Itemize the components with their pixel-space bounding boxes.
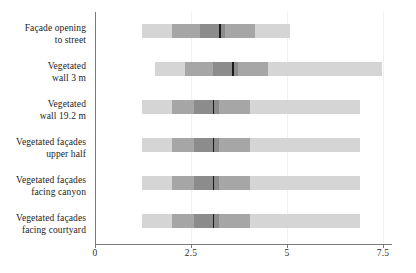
category-label-2: Vegetated wall 19.2 m [0, 99, 86, 122]
chart-canvas: 0 2.5 5 7.5 Façade opening to street Veg… [0, 0, 416, 273]
band-outer-low [142, 24, 172, 38]
category-label-0-line-1: Façade opening [0, 23, 86, 35]
band-outer-high [250, 176, 360, 190]
band-mid-high [225, 24, 255, 38]
band-mid-high [219, 176, 250, 190]
bar-row [142, 214, 360, 228]
band-mid-low [172, 100, 194, 114]
band-inner [194, 214, 219, 228]
bar-row [142, 138, 360, 152]
category-label-5-line-2: facing courtyard [0, 225, 86, 237]
band-outer-low [142, 176, 172, 190]
band-outer-high [268, 62, 382, 76]
category-label-2-line-2: wall 19.2 m [0, 111, 86, 123]
bar-row [155, 62, 382, 76]
band-inner [213, 62, 238, 76]
x-axis-line [95, 244, 392, 245]
category-label-3-line-1: Vegetated façades [0, 137, 86, 149]
gridline-5 [287, 12, 288, 244]
category-label-3: Vegetated façades upper half [0, 137, 86, 160]
category-label-0-line-2: to street [0, 35, 86, 47]
bar-row [142, 176, 360, 190]
band-inner [194, 176, 219, 190]
category-label-2-line-1: Vegetated [0, 99, 86, 111]
band-inner [194, 138, 219, 152]
category-label-3-line-2: upper half [0, 149, 86, 161]
band-outer-high [250, 214, 360, 228]
band-mid-high [219, 100, 250, 114]
band-inner [194, 100, 219, 114]
band-mid-high [238, 62, 268, 76]
band-mid-low [172, 214, 194, 228]
band-mid-high [219, 214, 250, 228]
band-inner [200, 24, 225, 38]
band-outer-high [255, 24, 290, 38]
category-label-1-line-1: Vegetated [0, 61, 86, 73]
band-outer-low [155, 62, 185, 76]
median-line [213, 176, 215, 190]
category-label-1-line-2: wall 3 m [0, 73, 86, 85]
median-line [213, 138, 215, 152]
category-label-1: Vegetated wall 3 m [0, 61, 86, 84]
category-label-5-line-1: Vegetated façades [0, 213, 86, 225]
band-outer-low [142, 100, 172, 114]
bar-row [142, 24, 290, 38]
band-mid-high [219, 138, 250, 152]
median-line [213, 214, 215, 228]
category-label-4: Vegetated façades facing canyon [0, 175, 86, 198]
gridline-2p5 [191, 12, 192, 244]
band-mid-low [172, 176, 194, 190]
band-outer-low [142, 138, 172, 152]
category-label-4-line-2: facing canyon [0, 187, 86, 199]
band-mid-low [172, 24, 200, 38]
bar-row [142, 100, 360, 114]
gridline-7p5 [383, 12, 384, 244]
band-mid-low [185, 62, 213, 76]
x-tick-label-5: 5 [267, 248, 307, 258]
median-line [232, 62, 234, 76]
median-line [213, 100, 215, 114]
band-outer-high [250, 138, 360, 152]
median-line [219, 24, 221, 38]
x-tick-label-2p5: 2.5 [171, 248, 211, 258]
band-mid-low [172, 138, 194, 152]
category-label-0: Façade opening to street [0, 23, 86, 46]
x-tick-label-0: 0 [75, 248, 115, 258]
category-label-5: Vegetated façades facing courtyard [0, 213, 86, 236]
x-tick-label-7p5: 7.5 [363, 248, 403, 258]
y-axis-line [95, 12, 96, 244]
band-outer-high [250, 100, 360, 114]
category-label-4-line-1: Vegetated façades [0, 175, 86, 187]
band-outer-low [142, 214, 172, 228]
